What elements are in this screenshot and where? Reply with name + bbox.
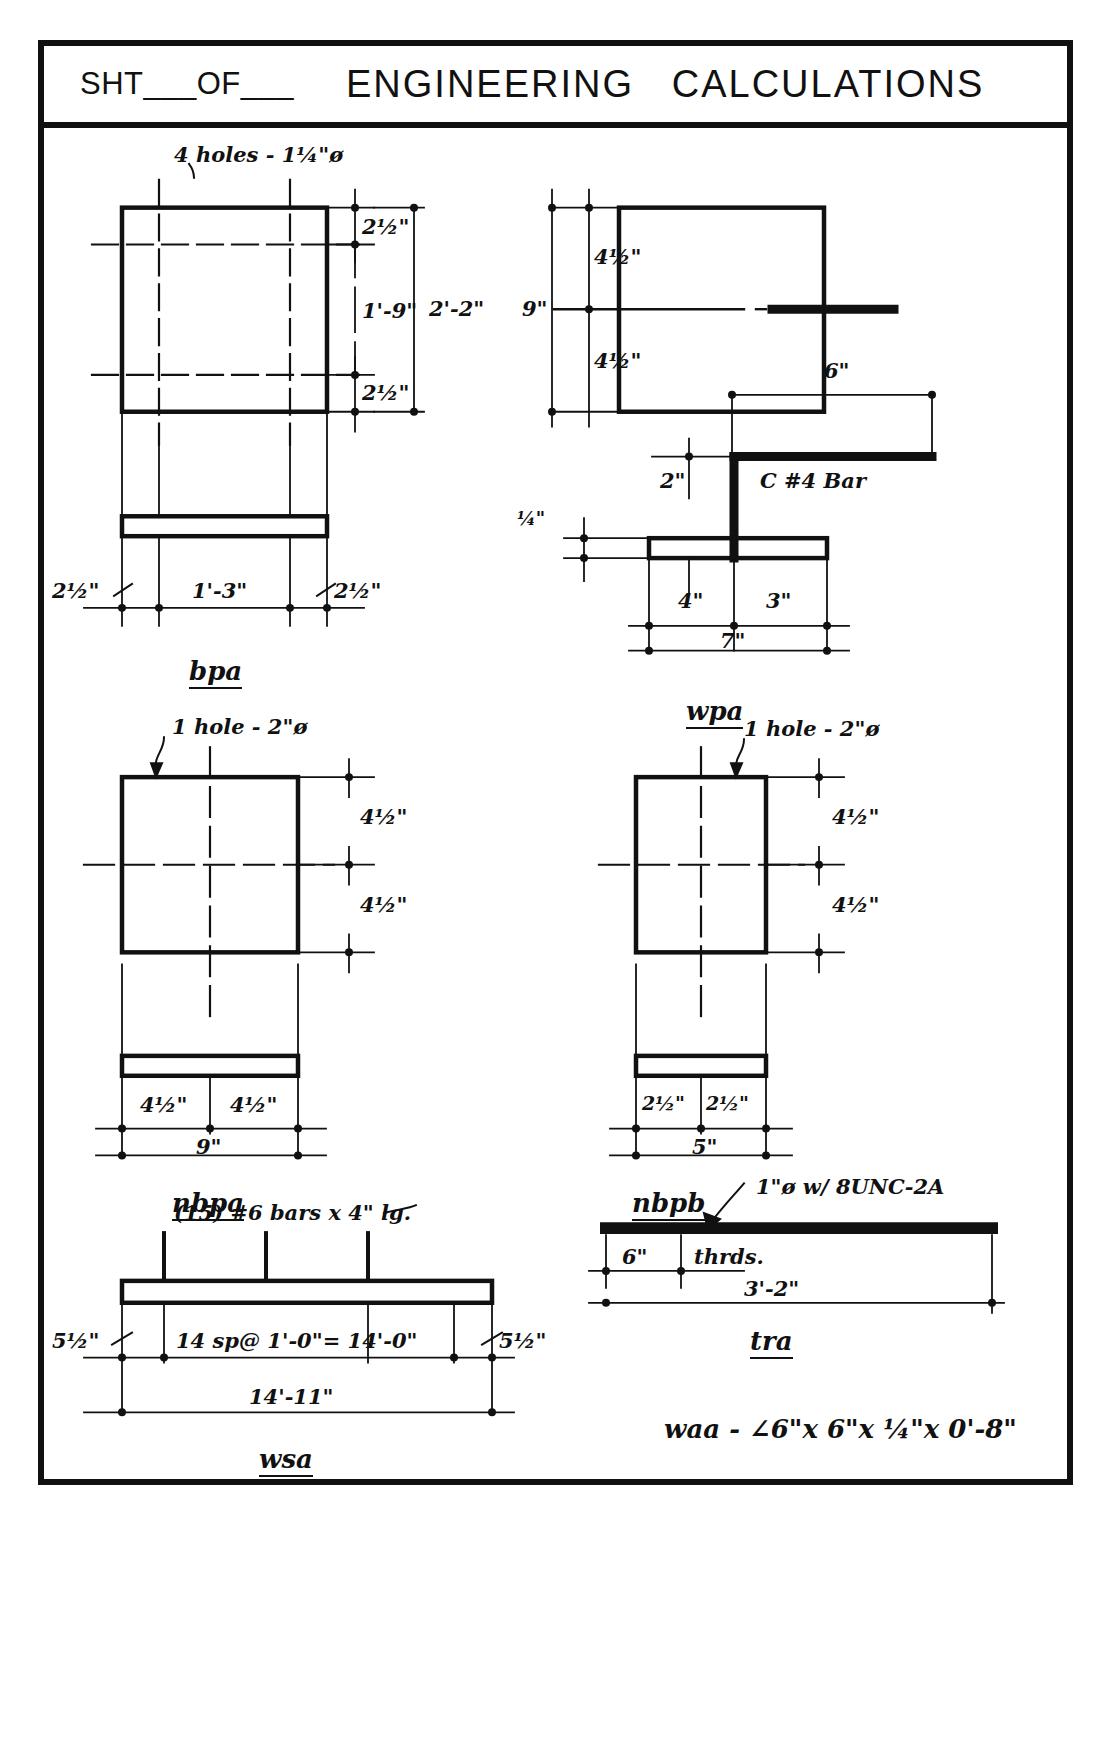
wpa-dim-6: 6" <box>824 360 850 381</box>
nbpa-dim-lower: 4½" <box>360 894 407 915</box>
nbpb-dim-lower: 4½" <box>832 894 879 915</box>
bpa-dim-top-edge: 2½" <box>362 216 409 237</box>
bpa-dim-left: 2½" <box>52 580 99 601</box>
wpa-dim-2: 2" <box>660 470 686 491</box>
nbpb-dim-upper: 4½" <box>832 806 879 827</box>
wpa-dim-3: 3" <box>766 590 792 611</box>
nbpb-hole-note: 1 hole - 2"ø <box>744 718 879 739</box>
wpa-dim-4: 4" <box>678 590 704 611</box>
tra-dim-thrds: thrds. <box>694 1246 764 1267</box>
nbpb-dim-left: 2½" <box>642 1094 685 1113</box>
bpa-dim-inner-vertical: 1'-9" <box>362 300 417 321</box>
nbpa-dim-left: 4½" <box>140 1094 187 1115</box>
bpa-dim-overall-vertical: 2'-2" <box>429 298 484 319</box>
wpa-dim-7: 7" <box>720 630 746 651</box>
part-label-wpa: wpa <box>686 698 743 729</box>
nbpb-dim-overall: 5" <box>692 1136 718 1157</box>
wpa-dim-quarter: ¼" <box>517 510 545 528</box>
bpa-dim-bottom-edge: 2½" <box>362 382 409 403</box>
wsa-dim-overall: 14'-11" <box>249 1386 334 1407</box>
nbpb-dim-right: 2½" <box>706 1094 749 1113</box>
wpa-plan-dim-upper: 4½" <box>594 246 641 267</box>
waa-callout: waa - ∠6"x 6"x ¼"x 0'-8" <box>664 1416 1017 1445</box>
waa-callout-text: waa - ∠6"x 6"x ¼"x 0'-8" <box>664 1414 1017 1444</box>
tra-dim-6: 6" <box>622 1246 648 1267</box>
bpa-holes-note: 4 holes - 1¼"ø <box>174 144 343 165</box>
part-label-wsa: wsa <box>259 1446 313 1477</box>
title-block: SHT___OF___ ENGINEERING CALCULATIONS <box>44 46 1067 128</box>
wpa-plan-dim-lower: 4½" <box>594 350 641 371</box>
bpa-dim-right: 2½" <box>334 580 381 601</box>
nbpa-hole-note: 1 hole - 2"ø <box>172 716 307 737</box>
part-label-bpa: bpa <box>189 658 242 689</box>
wpa-plan-dim-overall: 9" <box>522 298 548 319</box>
page-title: ENGINEERING CALCULATIONS <box>346 63 984 106</box>
wsa-dim-spacing: 14 sp@ 1'-0"= 14'-0" <box>176 1330 418 1351</box>
drawing-canvas: 4 holes - 1¼"ø 2½" 2'-2" 1'-9" 2½" 2½" 1… <box>44 128 1067 1479</box>
engineering-sheet: SHT___OF___ ENGINEERING CALCULATIONS <box>38 40 1073 1485</box>
bpa-dim-center: 1'-3" <box>192 580 247 601</box>
nbpa-dim-right: 4½" <box>230 1094 277 1115</box>
wsa-dim-right: 5½" <box>499 1330 546 1351</box>
part-label-nbpb: nbpb <box>632 1190 705 1221</box>
wsa-dim-left: 5½" <box>52 1330 99 1351</box>
wsa-bars-note: (15) #6 bars x 4" lg. <box>174 1202 411 1223</box>
nbpa-dim-upper: 4½" <box>360 806 407 827</box>
tra-thread-note: 1"ø w/ 8UNC-2A <box>756 1176 944 1197</box>
screenshot-root: SHT___OF___ ENGINEERING CALCULATIONS <box>0 0 1113 1744</box>
drawing-linework <box>44 128 1067 1479</box>
wpa-bar-note: C #4 Bar <box>760 470 866 491</box>
part-label-tra: tra <box>750 1328 793 1359</box>
tra-dim-overall: 3'-2" <box>744 1278 799 1299</box>
nbpa-dim-overall: 9" <box>196 1136 222 1157</box>
sheet-number-field[interactable]: SHT___OF___ <box>80 66 294 102</box>
